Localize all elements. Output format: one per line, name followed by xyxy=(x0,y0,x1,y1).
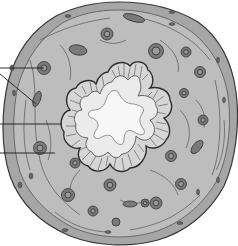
cross-section-illustration xyxy=(0,0,238,246)
histology-diagram xyxy=(0,0,238,246)
